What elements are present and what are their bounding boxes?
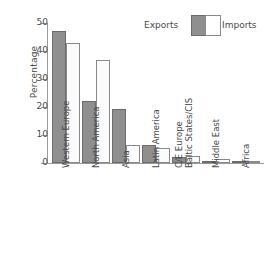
y-tick-label-10: 10 (26, 129, 48, 139)
x-tick-label-latin-america: Latin America (152, 109, 162, 168)
legend-label-imports: Imports (222, 20, 257, 30)
y-tick-label-20: 20 (26, 101, 48, 111)
bar-chart-figure: Percentage 50 40 30 20 10 0 Exports Impo… (0, 0, 274, 254)
y-tick-label-40: 40 (26, 45, 48, 55)
y-tick-20: 20 (16, 107, 48, 108)
x-tick-label-africa: Africa (242, 144, 252, 168)
x-tick-label-western-europe: Western Europe (62, 101, 72, 168)
y-tick-50: 50 (16, 23, 48, 24)
x-tick-label-baltic-states: Baltic States/CIS (185, 98, 195, 168)
legend-swatch-imports (205, 15, 221, 36)
bar-group (232, 23, 260, 163)
legend-label-exports: Exports (144, 20, 178, 30)
bar-group (112, 23, 140, 163)
y-tick-10: 10 (16, 135, 48, 136)
x-tick-label-asia: Asia (122, 150, 132, 168)
y-tick-label-30: 30 (26, 73, 48, 83)
x-tick-label-middle-east: Middle East (212, 119, 222, 168)
y-tick-label-50: 50 (26, 17, 48, 27)
x-tick-label-north-america: North America (92, 106, 102, 168)
y-tick-40: 40 (16, 51, 48, 52)
y-tick-0: 0 (16, 163, 48, 164)
y-tick-label-0: 0 (26, 157, 48, 167)
y-tick-30: 30 (16, 79, 48, 80)
